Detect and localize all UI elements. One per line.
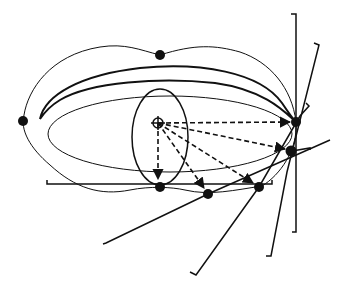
diagram-canvas bbox=[0, 0, 342, 290]
point-right-lower bbox=[286, 146, 297, 157]
dashed-arrow-right-lower bbox=[158, 123, 285, 149]
dashed-arrow-down-right-1 bbox=[158, 123, 204, 188]
outer-curve bbox=[23, 46, 296, 193]
dashed-arrow-right bbox=[158, 122, 290, 123]
inner-ellipse bbox=[48, 96, 292, 172]
point-top bbox=[155, 50, 165, 60]
point-left bbox=[18, 116, 28, 126]
crescent-band bbox=[40, 66, 296, 122]
point-bottom bbox=[155, 182, 165, 192]
center-crosshair-icon bbox=[151, 116, 165, 130]
point-bottom-right-1 bbox=[203, 189, 213, 199]
point-bottom-right-2 bbox=[254, 182, 264, 192]
point-right bbox=[291, 117, 301, 127]
